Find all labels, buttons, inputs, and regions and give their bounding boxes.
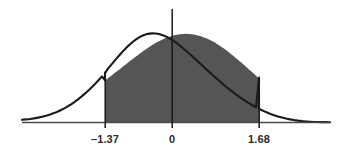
normal-distribution-figure: –1.37 0 1.68 xyxy=(0,0,343,155)
x-tick-label-center: 0 xyxy=(169,134,175,145)
x-tick-label-right: 1.68 xyxy=(248,134,270,145)
distribution-plot xyxy=(0,0,343,155)
x-tick-label-left: –1.37 xyxy=(91,134,119,145)
